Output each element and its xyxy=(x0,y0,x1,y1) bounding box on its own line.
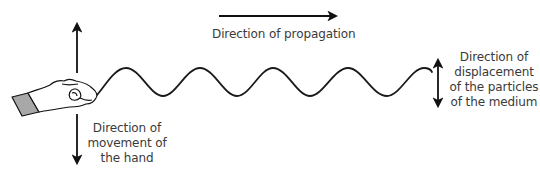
displacement-line-4: of the medium xyxy=(446,95,540,110)
hand-icon xyxy=(12,80,97,117)
hand-movement-label: Direction of movement of the hand xyxy=(84,121,170,166)
hand-movement-line-2: movement of xyxy=(84,136,170,151)
hand-movement-line-3: the hand xyxy=(84,151,170,166)
propagation-label-text: Direction of propagation xyxy=(212,27,340,42)
displacement-line-1: Direction of xyxy=(446,50,540,65)
hand-movement-line-1: Direction of xyxy=(84,121,170,136)
wave-icon xyxy=(96,68,432,96)
particle-displacement-label: Direction of displacement of the particl… xyxy=(446,50,540,110)
propagation-label: Direction of propagation xyxy=(212,27,340,42)
displacement-line-2: displacement xyxy=(446,65,540,80)
displacement-line-3: of the particles xyxy=(446,80,540,95)
